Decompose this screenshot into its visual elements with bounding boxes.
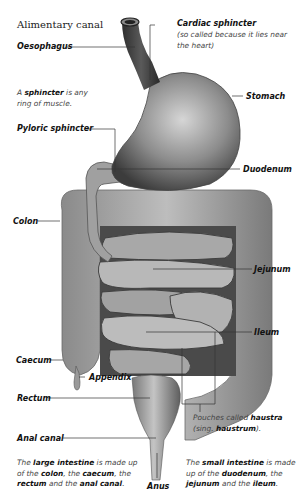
- note-large-intestine: The large intestine is made up of the co…: [17, 458, 139, 490]
- label-oesophagus: Oesophagus: [17, 42, 73, 51]
- label-cardiac-sphincter: Cardiac sphincter: [177, 19, 256, 28]
- label-stomach: Stomach: [246, 92, 285, 101]
- label-pyloric-sphincter: Pyloric sphincter: [17, 124, 93, 133]
- label-appendix: Appendix: [89, 373, 131, 382]
- label-rectum: Rectum: [17, 394, 51, 403]
- label-jejunum: Jejunum: [254, 265, 291, 274]
- stomach-shape: [112, 73, 240, 191]
- oesophagus-shape: [121, 18, 160, 90]
- note-cardiac-sphincter: (so called because it lies near the hear…: [177, 30, 289, 51]
- label-colon: Colon: [13, 217, 38, 226]
- note-haustra: Pouches called haustra (sing. haustrum).: [193, 413, 293, 434]
- diagram-title: Alimentary canal: [17, 19, 103, 30]
- label-ileum: Ileum: [254, 328, 279, 337]
- label-anal-canal: Anal canal: [17, 434, 64, 443]
- note-sphincter: A sphincter is any ring of muscle.: [17, 88, 97, 109]
- note-small-intestine: The small intestine is made up of the du…: [186, 458, 298, 490]
- label-caecum: Caecum: [16, 356, 51, 365]
- label-duodenum: Duodenum: [243, 165, 292, 174]
- label-anus: Anus: [147, 482, 169, 491]
- rectum-shape: [132, 375, 180, 480]
